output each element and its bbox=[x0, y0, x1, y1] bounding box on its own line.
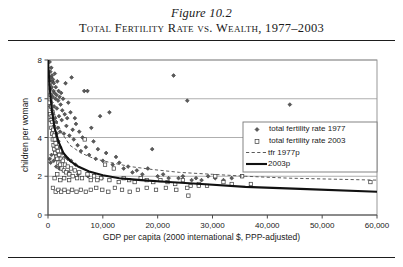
point-marker-square bbox=[66, 165, 69, 168]
point-marker-square bbox=[89, 188, 92, 191]
point-marker-square bbox=[175, 188, 178, 191]
x-tick-label-20000: 20,000 bbox=[145, 221, 170, 230]
point-marker-square bbox=[54, 142, 57, 145]
y-tick-label-6: 6 bbox=[38, 95, 43, 104]
point-marker-square bbox=[71, 175, 74, 178]
x-axis-label: GDP per capita (2000 international $, PP… bbox=[0, 232, 403, 242]
point-marker-square bbox=[84, 190, 87, 193]
point-marker-square bbox=[56, 173, 59, 176]
point-marker-square bbox=[69, 167, 72, 170]
point-marker-square bbox=[117, 180, 120, 183]
point-marker-square bbox=[58, 153, 61, 156]
y-tick-label-8: 8 bbox=[38, 56, 43, 65]
point-marker-square bbox=[73, 169, 76, 172]
point-marker-square bbox=[112, 167, 115, 170]
x-tick-label-30000: 30,000 bbox=[200, 221, 225, 230]
point-marker-square bbox=[59, 190, 62, 193]
legend-label-1: total fertility rate 2003 bbox=[269, 136, 346, 145]
point-marker-square bbox=[80, 176, 83, 179]
point-marker-square bbox=[154, 188, 157, 191]
point-marker-square bbox=[78, 171, 81, 174]
legend-label-2: tfr 1977p bbox=[268, 148, 300, 157]
point-marker-square bbox=[56, 157, 59, 160]
point-marker-square bbox=[83, 138, 86, 141]
x-tick-label-0: 0 bbox=[46, 221, 51, 230]
point-marker-square bbox=[113, 186, 116, 189]
chart-area: 02468010,00020,00030,00040,00050,00060,0… bbox=[0, 46, 403, 256]
point-marker-square bbox=[133, 180, 136, 183]
legend-label-3: 2003p bbox=[268, 159, 291, 168]
point-marker-square bbox=[63, 188, 66, 191]
point-marker-square bbox=[214, 175, 217, 178]
figure-title: Total Fertility Rate vs. Wealth, 1977–20… bbox=[0, 20, 403, 36]
point-marker-square bbox=[128, 190, 131, 193]
point-marker-square bbox=[249, 182, 252, 185]
x-tick-label-10000: 10,000 bbox=[91, 221, 116, 230]
y-tick-label-4: 4 bbox=[38, 134, 43, 143]
footer-divider-rule bbox=[8, 257, 395, 258]
point-marker-square bbox=[108, 178, 111, 181]
point-marker-square bbox=[186, 186, 189, 189]
point-marker-square bbox=[67, 178, 70, 181]
x-tick-label-50000: 50,000 bbox=[310, 221, 335, 230]
scatter-plot: 02468010,00020,00030,00040,00050,00060,0… bbox=[0, 46, 403, 231]
figure-number: Figure 10.2 bbox=[0, 0, 403, 20]
x-tick-label-60000: 60,000 bbox=[365, 221, 390, 230]
point-marker-square bbox=[58, 163, 61, 166]
point-marker-square bbox=[79, 188, 82, 191]
point-marker-square bbox=[95, 186, 98, 189]
point-marker-square bbox=[51, 186, 54, 189]
point-marker-square bbox=[136, 188, 139, 191]
point-marker-square bbox=[120, 188, 123, 191]
point-marker-square bbox=[99, 176, 102, 179]
point-marker-square bbox=[75, 176, 78, 179]
point-marker-square bbox=[96, 178, 99, 181]
point-marker-square bbox=[53, 138, 56, 141]
point-marker-square bbox=[107, 190, 110, 193]
point-marker-square bbox=[52, 134, 55, 137]
point-marker-square bbox=[64, 171, 67, 174]
point-marker-square bbox=[59, 178, 62, 181]
point-marker-square bbox=[86, 173, 89, 176]
point-marker-square bbox=[181, 178, 184, 181]
point-marker-square bbox=[67, 190, 70, 193]
point-marker-square bbox=[103, 163, 106, 166]
legend-marker-square bbox=[255, 140, 259, 144]
point-marker-square bbox=[75, 190, 78, 193]
point-marker-square bbox=[92, 175, 95, 178]
y-tick-label-0: 0 bbox=[38, 211, 43, 220]
y-tick-label-2: 2 bbox=[38, 172, 43, 181]
figure-page: Figure 10.2 Total Fertility Rate vs. Wea… bbox=[0, 0, 403, 267]
x-tick-label-40000: 40,000 bbox=[255, 221, 280, 230]
point-marker-square bbox=[61, 159, 64, 162]
point-marker-square bbox=[101, 188, 104, 191]
point-marker-square bbox=[53, 176, 56, 179]
point-marker-square bbox=[68, 173, 71, 176]
point-marker-square bbox=[222, 180, 225, 183]
point-marker-square bbox=[187, 194, 190, 197]
point-marker-square bbox=[55, 145, 58, 148]
figure-header: Figure 10.2 Total Fertility Rate vs. Wea… bbox=[0, 0, 403, 36]
point-marker-square bbox=[62, 176, 65, 179]
legend-label-0: total fertility rate 1977 bbox=[269, 124, 346, 133]
point-marker-square bbox=[56, 149, 59, 152]
point-marker-square bbox=[369, 180, 372, 183]
point-marker-square bbox=[164, 186, 167, 189]
point-marker-square bbox=[189, 184, 192, 187]
header-divider-rule bbox=[8, 40, 395, 41]
y-axis-label: children per woman bbox=[20, 80, 30, 190]
point-marker-square bbox=[145, 186, 148, 189]
point-marker-square bbox=[89, 178, 92, 181]
point-marker-square bbox=[70, 188, 73, 191]
